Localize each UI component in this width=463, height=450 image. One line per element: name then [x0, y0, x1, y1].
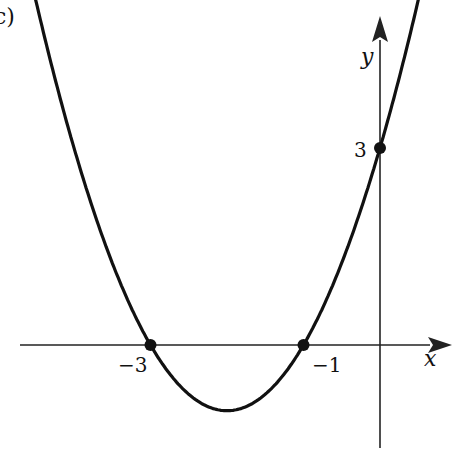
parabola-chart: c) x y −3 −1 3	[0, 0, 463, 450]
y-axis	[372, 16, 388, 448]
x-tick-label: −3	[118, 353, 147, 377]
marked-point	[374, 142, 386, 154]
y-tick-label: 3	[354, 138, 367, 162]
x-axis-label: x	[424, 346, 437, 371]
marked-point	[298, 339, 310, 351]
panel-label: c)	[0, 4, 15, 29]
tick-labels: −3 −1 3	[118, 138, 367, 377]
marked-point	[145, 339, 157, 351]
marked-points	[145, 142, 387, 351]
x-tick-label: −1	[312, 353, 341, 377]
x-axis	[20, 337, 452, 353]
y-axis-label: y	[360, 44, 374, 69]
y-axis-arrow-icon	[372, 16, 388, 42]
